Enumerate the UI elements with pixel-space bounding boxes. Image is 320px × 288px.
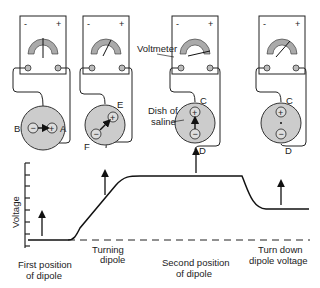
- svg-text:-: -: [87, 19, 90, 29]
- svg-text:+: +: [278, 108, 283, 118]
- dish-callout-line2: saline: [151, 116, 176, 127]
- svg-text:−: −: [94, 129, 99, 139]
- voltmeter-2: - +: [83, 16, 129, 74]
- svg-text:B: B: [14, 123, 20, 134]
- voltmeter-1: - +: [20, 16, 66, 74]
- svg-text:-: -: [176, 19, 179, 29]
- svg-text:D: D: [199, 145, 206, 156]
- svg-text:First position: First position: [18, 259, 72, 270]
- saline-dish-3: + − C D: [175, 95, 215, 156]
- svg-text:-: -: [263, 19, 266, 29]
- diagram-canvas: - + − + B A - + − + E F: [0, 0, 320, 288]
- svg-text:+: +: [295, 19, 300, 29]
- svg-text:dipole: dipole: [100, 254, 125, 265]
- svg-text:+: +: [119, 19, 124, 29]
- svg-text:+: +: [110, 113, 115, 123]
- svg-text:A: A: [60, 123, 67, 134]
- voltmeter-4: - +: [259, 16, 305, 74]
- svg-text:F: F: [84, 141, 90, 152]
- svg-text:C: C: [200, 95, 207, 106]
- voltage-graph: Voltage Turning dipole First position of…: [10, 151, 310, 281]
- svg-text:D: D: [285, 145, 292, 156]
- svg-text:Second position: Second position: [162, 257, 230, 268]
- voltmeter-callout: Voltmeter: [137, 43, 177, 54]
- y-axis-label: Voltage: [10, 196, 21, 228]
- saline-dish-4: + − C D: [261, 95, 301, 156]
- svg-text:−: −: [279, 129, 284, 139]
- svg-text:Turn down: Turn down: [258, 244, 303, 255]
- voltmeter-3: - +: [172, 16, 218, 74]
- svg-text:+: +: [49, 124, 54, 134]
- saline-dish-2: − + E F: [84, 99, 125, 152]
- svg-text:E: E: [117, 99, 123, 110]
- svg-text:−: −: [31, 123, 36, 133]
- svg-text:+: +: [56, 19, 61, 29]
- dish-callout-line1: Dish of: [148, 105, 178, 116]
- svg-text:C: C: [286, 95, 293, 106]
- svg-text:−: −: [193, 129, 198, 139]
- svg-text:of dipole: of dipole: [176, 268, 212, 279]
- saline-dish-1: − + B A: [14, 106, 67, 150]
- svg-text:+: +: [192, 108, 197, 118]
- svg-text:of dipole: of dipole: [26, 270, 62, 281]
- dipole-voltage-diagram: - + − + B A - + − + E F: [0, 0, 320, 288]
- svg-text:-: -: [24, 19, 27, 29]
- svg-text:+: +: [208, 19, 213, 29]
- svg-text:dipole voltage: dipole voltage: [249, 255, 308, 266]
